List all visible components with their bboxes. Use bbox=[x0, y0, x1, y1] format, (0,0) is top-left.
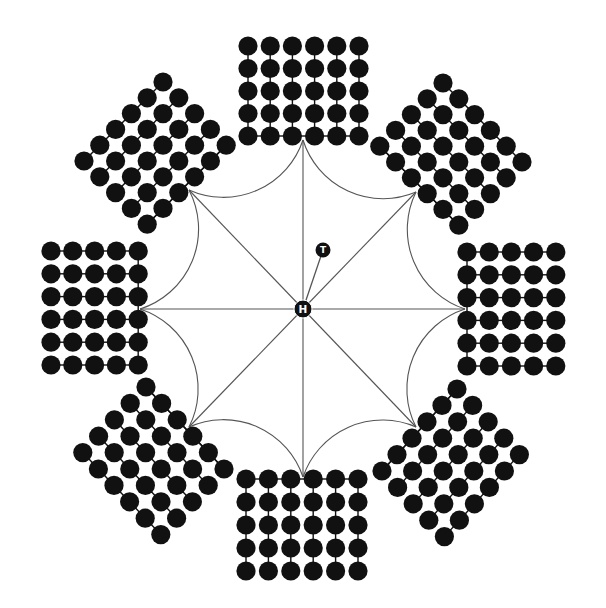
grid-dot bbox=[524, 356, 543, 375]
grid-dot bbox=[63, 333, 82, 352]
grid-dot bbox=[169, 120, 188, 139]
grid-dot bbox=[433, 137, 452, 156]
grid-dot bbox=[435, 527, 454, 546]
grid-dot bbox=[238, 59, 257, 78]
grid-dot bbox=[121, 394, 140, 413]
grid-dot bbox=[236, 538, 255, 557]
grid-dot bbox=[326, 561, 345, 580]
grid-dot bbox=[283, 36, 302, 55]
grid-dot bbox=[417, 412, 436, 431]
grid-dot bbox=[502, 242, 521, 261]
grid-dot bbox=[402, 137, 421, 156]
grid-dot bbox=[402, 168, 421, 187]
grid-dot bbox=[418, 184, 437, 203]
grid-dot bbox=[546, 311, 565, 330]
grid-dot bbox=[281, 561, 300, 580]
grid-dot bbox=[449, 216, 468, 235]
spoke-lower-right bbox=[303, 309, 416, 427]
grid-dot bbox=[349, 81, 368, 100]
grid-dot bbox=[167, 476, 186, 495]
grid-dot bbox=[304, 469, 323, 488]
grid-dot bbox=[120, 459, 139, 478]
grid-dot bbox=[502, 334, 521, 353]
grid-dot bbox=[348, 515, 367, 534]
grid-dot bbox=[457, 242, 476, 261]
dot-grid-right bbox=[457, 242, 565, 375]
grid-dot bbox=[183, 459, 202, 478]
grid-dot bbox=[238, 126, 257, 145]
grid-dot bbox=[89, 459, 108, 478]
grid-dot bbox=[465, 137, 484, 156]
grid-dot bbox=[348, 492, 367, 511]
grid-dot bbox=[432, 396, 451, 415]
grid-dot bbox=[136, 476, 155, 495]
grid-dot bbox=[449, 121, 468, 140]
tail-node-label: T bbox=[320, 245, 327, 255]
grid-dot bbox=[122, 199, 141, 218]
grid-dot bbox=[151, 525, 170, 544]
grid-dot bbox=[326, 492, 345, 511]
grid-dot bbox=[167, 443, 186, 462]
grid-dot bbox=[481, 184, 500, 203]
grid-dot bbox=[63, 355, 82, 374]
grid-dot bbox=[348, 469, 367, 488]
grid-dot bbox=[480, 356, 499, 375]
center-node-h: H bbox=[294, 300, 312, 318]
grid-dot bbox=[449, 478, 468, 497]
grid-dot bbox=[349, 59, 368, 78]
grid-dot bbox=[41, 287, 60, 306]
grid-dot bbox=[304, 515, 323, 534]
grid-dot bbox=[524, 288, 543, 307]
grid-dot bbox=[433, 105, 452, 124]
grid-dot bbox=[433, 73, 452, 92]
grid-dot bbox=[502, 356, 521, 375]
grid-dot bbox=[327, 81, 346, 100]
grid-dot bbox=[546, 288, 565, 307]
grid-dot bbox=[305, 81, 324, 100]
grid-dot bbox=[449, 89, 468, 108]
grid-dot bbox=[107, 333, 126, 352]
grid-dot bbox=[457, 265, 476, 284]
grid-dot bbox=[85, 287, 104, 306]
grid-dot bbox=[236, 561, 255, 580]
grid-dot bbox=[524, 334, 543, 353]
grid-dot bbox=[152, 427, 171, 446]
grid-dot bbox=[349, 36, 368, 55]
grid-dot bbox=[418, 445, 437, 464]
grid-dot bbox=[41, 355, 60, 374]
dot-grid-top bbox=[238, 36, 368, 145]
grid-dot bbox=[502, 288, 521, 307]
grid-dot bbox=[546, 356, 565, 375]
grid-dot bbox=[105, 410, 124, 429]
grid-dot bbox=[259, 469, 278, 488]
grid-dot bbox=[524, 242, 543, 261]
grid-dot bbox=[138, 120, 157, 139]
grid-dot bbox=[41, 310, 60, 329]
grid-dot bbox=[349, 126, 368, 145]
grid-dot bbox=[281, 469, 300, 488]
grid-dot bbox=[348, 538, 367, 557]
grid-dot bbox=[479, 445, 498, 464]
grid-dot bbox=[259, 561, 278, 580]
grid-dot bbox=[480, 311, 499, 330]
grid-dot bbox=[85, 241, 104, 260]
grid-dot bbox=[402, 105, 421, 124]
grid-dot bbox=[138, 215, 157, 234]
grid-dot bbox=[327, 126, 346, 145]
grid-dot bbox=[418, 121, 437, 140]
grid-dot bbox=[418, 89, 437, 108]
grid-dot bbox=[546, 334, 565, 353]
grid-dot bbox=[481, 121, 500, 140]
grid-dot bbox=[261, 104, 280, 123]
grid-dot bbox=[129, 264, 148, 283]
grid-dot bbox=[138, 88, 157, 107]
grid-dot bbox=[120, 427, 139, 446]
grid-dot bbox=[183, 427, 202, 446]
grid-dot bbox=[305, 104, 324, 123]
grid-dot bbox=[450, 511, 469, 530]
grid-dot bbox=[153, 72, 172, 91]
grid-dot bbox=[418, 152, 437, 171]
grid-dot bbox=[449, 184, 468, 203]
grid-dot bbox=[169, 88, 188, 107]
grid-dot bbox=[349, 104, 368, 123]
